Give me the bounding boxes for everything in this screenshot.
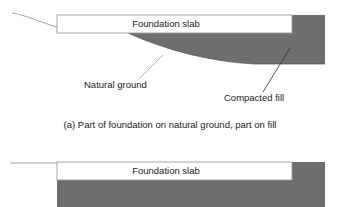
figure-caption-a: (a) Part of foundation on natural ground… (0, 120, 340, 130)
compacted-fill-region-b (57, 180, 325, 207)
foundation-slab-label-b: Foundation slab (0, 166, 340, 176)
foundation-figure: Foundation slab Natural ground Compacted… (0, 0, 340, 207)
leader-line-natural-ground (139, 55, 163, 79)
natural-ground-label: Natural ground (84, 80, 147, 90)
compacted-fill-label: Compacted fill (224, 93, 284, 103)
foundation-slab-label-a: Foundation slab (0, 19, 340, 29)
